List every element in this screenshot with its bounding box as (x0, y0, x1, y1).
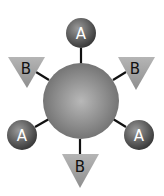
bond-upper-left (36, 72, 49, 80)
node-label: A (17, 127, 28, 145)
molecule-diagram: A B B A A B (0, 0, 164, 196)
node-b-upper-left: B (8, 57, 45, 88)
node-a-lower-left: A (7, 120, 37, 150)
node-label: A (134, 127, 145, 145)
node-label: A (76, 25, 87, 43)
node-a-lower-right: A (124, 120, 154, 150)
node-a-top: A (66, 18, 96, 48)
node-b-bottom: B (62, 154, 99, 188)
bond-lower-left (35, 119, 49, 127)
bond-lower-right (113, 119, 126, 127)
node-label: B (21, 60, 31, 78)
node-label: B (75, 158, 85, 176)
central-sphere (43, 63, 119, 139)
bond-upper-right (113, 72, 126, 80)
node-label: B (130, 60, 140, 78)
